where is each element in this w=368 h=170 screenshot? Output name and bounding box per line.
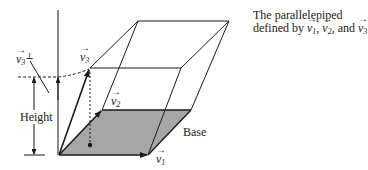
vector-arrow-icon: → (80, 41, 90, 54)
title-v3: →v3 (358, 21, 367, 35)
v2-label: →v2 (111, 95, 120, 111)
projection-point (88, 143, 92, 147)
v3-label: →v3 (80, 51, 89, 67)
vector-arrow-icon: → (156, 143, 166, 156)
height-label: Height (20, 111, 53, 124)
title-prefix: defined by (253, 21, 307, 35)
title-line-2: defined by →v1, →v2, and →v3 (253, 22, 367, 38)
vector-arrow-icon: → (322, 12, 332, 25)
vector-arrow-icon: → (111, 85, 121, 98)
v1-label: →v1 (156, 153, 165, 169)
title-v2: →v2 (322, 21, 331, 35)
title-label: The parallelepiped defined by →v1, →v2, … (253, 9, 367, 38)
vector-arrow-icon: → (307, 12, 317, 25)
vector-arrow-icon: → (16, 43, 26, 56)
vector-arrow-icon: → (358, 12, 368, 25)
v3-perp-label: →v3⊥ (16, 50, 34, 69)
base-label: Base (183, 126, 206, 139)
base-face (59, 110, 191, 155)
height-dashed-line (18, 69, 89, 77)
top-face (90, 21, 229, 68)
title-v1: →v1 (307, 21, 316, 35)
